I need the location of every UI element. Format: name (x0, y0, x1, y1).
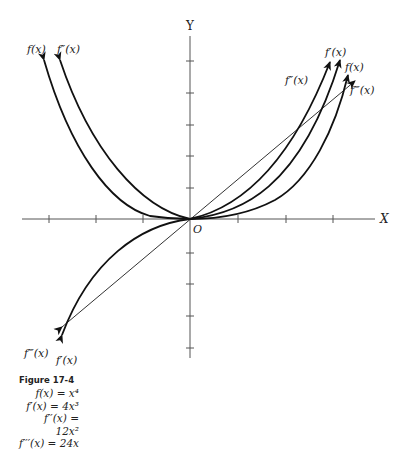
y-axis (186, 36, 194, 358)
figure-title: Figure 17-4 (19, 375, 79, 385)
equation-f2: f′′(x) = 12x² (19, 412, 79, 437)
label-f3-right: f‴(x) (350, 85, 375, 96)
origin-label: O (193, 224, 202, 235)
equation-f: f(x) = x⁴ (19, 387, 79, 400)
equation-f1: f′(x) = 4x³ (19, 400, 79, 413)
equation-f3: f′′′(x) = 24x (19, 437, 79, 450)
label-f3-bottom-left: f‴(x) (24, 348, 49, 359)
curve-f3 (62, 81, 355, 327)
x-axis-label: X (380, 213, 389, 225)
label-f-right: f(x) (345, 62, 364, 73)
y-axis-label: Y (186, 20, 194, 32)
label-f2-right: f″(x) (285, 75, 308, 86)
label-f1-bottom-left: f′(x) (56, 355, 77, 366)
curve-f1 (62, 60, 340, 335)
figure-caption: Figure 17-4 f(x) = x⁴ f′(x) = 4x³ f′′(x)… (19, 375, 79, 450)
label-f-left: f(x) (27, 44, 46, 55)
label-f1-top-right: f′(x) (325, 47, 346, 58)
label-f2-left: f″(x) (57, 44, 80, 55)
